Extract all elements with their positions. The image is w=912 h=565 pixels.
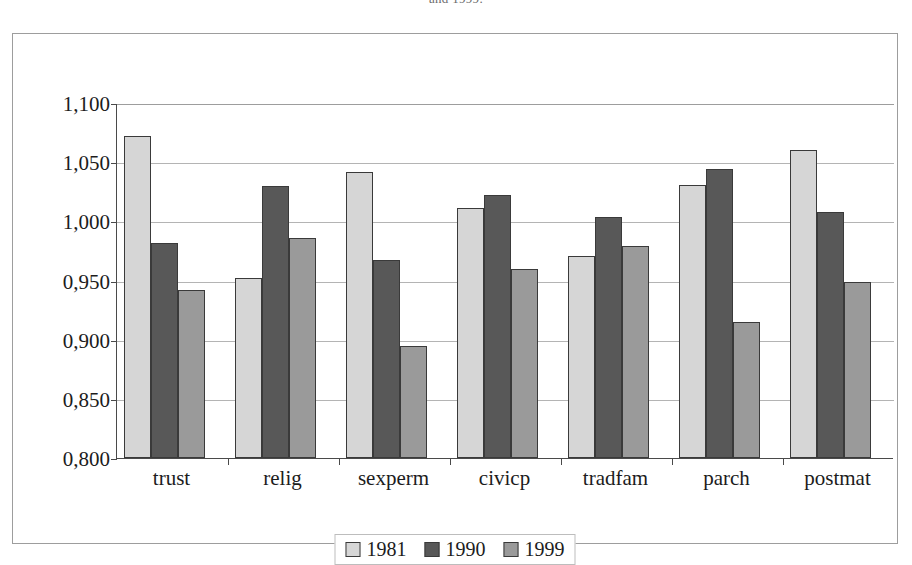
chart-legend: 198119901999 [335, 534, 576, 565]
x-axis-label-postmat: postmat [804, 466, 871, 491]
bar-group-trust [124, 103, 205, 458]
y-axis-tick-label: 1,000 [32, 212, 110, 233]
y-axis-tick [111, 459, 117, 460]
bar-parch-1981[interactable] [679, 185, 706, 458]
bar-group-parch [679, 103, 760, 458]
bar-trust-1999[interactable] [178, 290, 205, 458]
figure-caption: and 1999. [0, 0, 912, 7]
y-axis-tick [111, 222, 117, 223]
y-axis-tick [111, 104, 117, 105]
x-axis-tick [783, 458, 784, 465]
legend-swatch-icon-1981 [346, 542, 361, 557]
y-axis-tick [111, 341, 117, 342]
legend-item-1990[interactable]: 1990 [425, 539, 486, 559]
bar-sexperm-1981[interactable] [346, 172, 373, 458]
legend-item-1999[interactable]: 1999 [504, 539, 565, 559]
bar-relig-1999[interactable] [289, 238, 316, 458]
bar-sexperm-1990[interactable] [373, 260, 400, 458]
plot-area [116, 104, 893, 459]
bar-trust-1990[interactable] [151, 243, 178, 458]
x-axis-label-parch: parch [703, 466, 750, 491]
bar-relig-1990[interactable] [262, 186, 289, 458]
y-axis-label-group: 1,1001,0501,0000,9500,9000,8500,800 [25, 104, 110, 459]
x-axis-tick [228, 458, 229, 465]
y-axis-tick-label: 0,950 [32, 271, 110, 292]
bar-group-tradfam [568, 103, 649, 458]
y-axis-tick [111, 282, 117, 283]
bar-postmat-1990[interactable] [817, 212, 844, 458]
bar-tradfam-1990[interactable] [595, 217, 622, 458]
x-axis-label-sexperm: sexperm [358, 466, 429, 491]
x-axis-tick [561, 458, 562, 465]
bar-trust-1981[interactable] [124, 136, 151, 458]
y-axis-tick [111, 163, 117, 164]
x-axis-label-trust: trust [153, 466, 190, 491]
y-axis-tick-label: 0,850 [32, 389, 110, 410]
x-axis-label-tradfam: tradfam [583, 466, 648, 491]
bar-group-sexperm [346, 103, 427, 458]
legend-label: 1990 [446, 539, 486, 559]
x-axis-tick [672, 458, 673, 465]
legend-label: 1999 [525, 539, 565, 559]
y-axis-tick-label: 1,050 [32, 153, 110, 174]
bar-group-relig [235, 103, 316, 458]
x-axis-tick [450, 458, 451, 465]
x-axis-label-relig: relig [263, 466, 301, 491]
x-axis-label-civicp: civicp [479, 466, 530, 491]
bar-tradfam-1981[interactable] [568, 256, 595, 458]
bar-sexperm-1999[interactable] [400, 346, 427, 458]
bar-civicp-1981[interactable] [457, 208, 484, 458]
chart-frame: 1,1001,0501,0000,9500,9000,8500,800 trus… [12, 33, 898, 544]
bar-tradfam-1999[interactable] [622, 246, 649, 458]
bar-group-civicp [457, 103, 538, 458]
y-axis-tick-label: 0,800 [32, 449, 110, 470]
y-axis-tick-label: 1,100 [32, 94, 110, 115]
bar-civicp-1990[interactable] [484, 195, 511, 458]
y-axis-tick [111, 400, 117, 401]
y-axis-tick-label: 0,900 [32, 330, 110, 351]
legend-label: 1981 [367, 539, 407, 559]
bar-civicp-1999[interactable] [511, 269, 538, 458]
legend-swatch-icon-1990 [425, 542, 440, 557]
x-axis-label-group: trustreligsexpermcivicptradfamparchpostm… [116, 466, 893, 506]
x-axis-tick [339, 458, 340, 465]
bar-parch-1999[interactable] [733, 322, 760, 458]
bar-postmat-1999[interactable] [844, 282, 871, 458]
bar-parch-1990[interactable] [706, 169, 733, 458]
bar-relig-1981[interactable] [235, 278, 262, 458]
legend-item-1981[interactable]: 1981 [346, 539, 407, 559]
legend-swatch-icon-1999 [504, 542, 519, 557]
bar-group-postmat [790, 103, 871, 458]
bar-postmat-1981[interactable] [790, 150, 817, 458]
